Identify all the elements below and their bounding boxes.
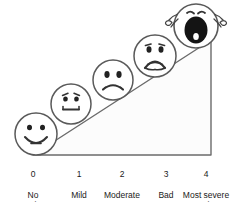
axis-tick-0: 0 No pain: [13, 158, 53, 203]
axis-tick-0-number: 0: [13, 169, 53, 180]
axis-tick-1: 1 Mild: [59, 158, 99, 203]
face-1-slight-frown: [51, 84, 91, 124]
axis-tick-2-number: 2: [96, 169, 148, 180]
axis-tick-1-number: 1: [59, 169, 99, 180]
axis-labels: 0 No pain 1 Mild 2 Moderate 3 Bad 4 Most…: [0, 158, 243, 203]
face-3-very-sad: [134, 35, 176, 77]
axis-tick-4-number: 4: [173, 169, 239, 180]
axis-tick-2: 2 Moderate: [96, 158, 148, 203]
axis-tick-4: 4 Most severe pain: [173, 158, 239, 203]
axis-tick-4-text: Most severe pain: [173, 190, 239, 204]
face-4-crying: [165, 4, 226, 48]
axis-tick-0-text: No pain: [13, 190, 53, 204]
face-0-smiling: [15, 113, 57, 155]
face-2-frowning: [93, 60, 133, 100]
pain-scale-figure: 0 No pain 1 Mild 2 Moderate 3 Bad 4 Most…: [0, 0, 243, 203]
axis-tick-2-text: Moderate: [96, 190, 148, 201]
axis-tick-1-text: Mild: [59, 190, 99, 201]
